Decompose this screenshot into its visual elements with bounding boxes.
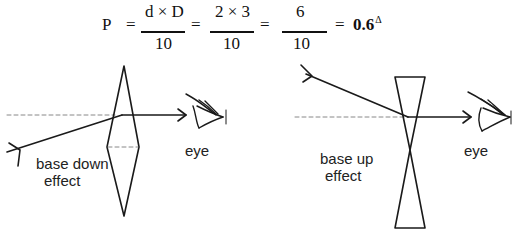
incident-ray <box>306 74 408 117</box>
effect-label-line1: base up <box>320 150 373 167</box>
eye-icon <box>186 94 226 128</box>
eye-label-right: eye <box>464 142 488 159</box>
effect-label-line1: base down <box>36 155 109 172</box>
ray-tail-arrow-icon <box>9 143 20 166</box>
effect-label-line2: effect <box>325 167 373 184</box>
base-down-effect-label: base down effect <box>36 155 109 189</box>
prism-diagrams <box>0 0 521 233</box>
eye-icon <box>468 92 511 131</box>
left-diagram <box>7 66 226 216</box>
lower-prism-icon <box>395 150 425 228</box>
base-up-effect-label: base up effect <box>320 150 373 184</box>
base-to-base-prism-icon <box>107 66 139 216</box>
eye-label-left: eye <box>185 142 209 159</box>
effect-label-line2: effect <box>44 172 109 189</box>
incident-ray <box>7 115 122 152</box>
